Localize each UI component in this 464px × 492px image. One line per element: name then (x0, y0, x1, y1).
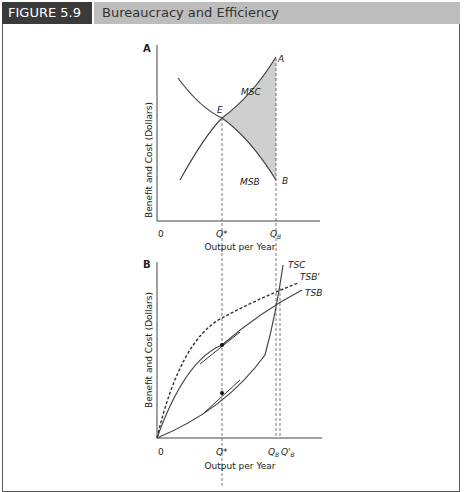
msb-label: MSB (240, 177, 260, 187)
tsb-point (220, 343, 224, 347)
tsb-tangent (200, 332, 240, 364)
msc-label: MSC (241, 87, 261, 97)
point-b: B (282, 176, 288, 186)
tsc-curve (157, 265, 283, 438)
panel-b-qb-prime: Q'B (281, 447, 295, 458)
panel-a-qstar: Q* (216, 229, 228, 239)
panel-b-label: B (143, 259, 151, 270)
panel-a-qb: QB (270, 229, 281, 240)
panel-a-ylabel: Benefit and Cost (Dollars) (144, 102, 154, 218)
tsb-prime-curve (157, 283, 298, 438)
panel-b-xlabel: Output per Year (205, 461, 276, 471)
tsb-label: TSB (305, 288, 322, 298)
panel-a-xlabel: Output per Year (205, 242, 276, 252)
panel-a-label: A (143, 43, 151, 54)
tsb-prime-label: TSB' (300, 272, 320, 282)
panel-b-origin: 0 (158, 447, 164, 457)
panel-a-origin: 0 (158, 229, 164, 239)
panel-b-qb: QB (268, 447, 279, 458)
point-a: A (277, 54, 284, 64)
deadweight-area (222, 57, 276, 180)
panel-b-qstar: Q* (216, 447, 228, 457)
point-e: E (217, 105, 223, 115)
tsc-tangent (205, 380, 240, 412)
tsc-point (220, 391, 224, 395)
panel-b-ylabel: Benefit and Cost (Dollars) (144, 292, 154, 408)
tsc-label: TSC (288, 260, 306, 270)
panel-b: B Benefit and Cost (Dollars) TSC TSB' TS… (143, 259, 322, 471)
